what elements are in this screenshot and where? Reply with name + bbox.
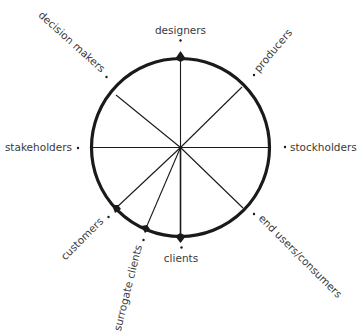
label-designers: designers (155, 24, 206, 36)
spoke-decision-makers (116, 95, 181, 148)
label-decision-makers: decision makers (36, 9, 107, 75)
label-customers: customers (58, 215, 105, 262)
spoke-end-users (181, 148, 244, 209)
marker-clients (175, 233, 186, 243)
spoke-producers (181, 87, 243, 148)
spoke-customers (116, 148, 181, 209)
label-end-users: end users/consumers (257, 212, 345, 300)
label-clients: clients (164, 252, 198, 264)
marker-designers (175, 51, 186, 62)
spoke-surrogate-clients (146, 148, 181, 229)
label-stakeholders: stakeholders (5, 141, 72, 153)
label-stockholders: stockholders (290, 141, 357, 153)
label-producers: producers (251, 26, 294, 74)
label-surrogate-clients: surrogate clients (111, 244, 144, 332)
stakeholder-wheel-diagram: designers producers stockholders end use… (0, 0, 357, 334)
